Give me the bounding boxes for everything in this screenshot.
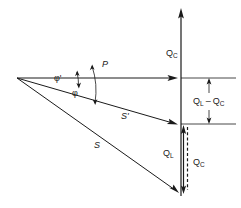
label-p: P [102,60,108,69]
label-ql-minus-qc: QL–QC [193,97,224,106]
phasor-diagram: QC P φ' φ S' S QL–QC QL QC [0,0,241,208]
vector-s-prime [17,78,178,125]
vector-s [17,78,179,193]
angle-arc-phi-prime [75,71,81,89]
arrow-ql [181,125,186,194]
label-qc-top: QC [166,49,178,58]
label-s-prime: S' [121,112,129,121]
minus-operator: – [204,96,213,106]
label-phi-prime: φ' [54,74,62,83]
label-phi: φ [72,89,78,98]
label-qc-bottom: QC [193,158,205,167]
label-s: S [94,141,100,150]
vector-p [17,75,178,81]
label-ql: QL [163,149,174,158]
